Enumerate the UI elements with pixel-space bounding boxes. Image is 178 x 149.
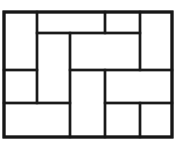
tile-bottom-right-small <box>140 103 172 137</box>
tile-top-right-vertical <box>140 12 172 70</box>
tile-bottom-left-horizontal <box>4 103 70 137</box>
tile-upper-mid-center-horizontal <box>70 33 140 70</box>
tile-upper-mid-left-vertical <box>37 33 70 103</box>
tile-bottom-center-small <box>105 103 140 137</box>
tiling-figure <box>0 0 178 149</box>
tile-center-vertical <box>70 70 105 137</box>
tile-top-center-horizontal <box>37 12 105 33</box>
tile-top-right-inner-small <box>105 12 140 33</box>
tiling-diagram-svg <box>0 0 178 149</box>
tile-mid-right-horizontal <box>105 70 172 103</box>
tile-fill-group <box>4 12 172 137</box>
tile-mid-left-horizontal <box>4 70 37 103</box>
tile-top-left-vertical <box>4 12 37 70</box>
